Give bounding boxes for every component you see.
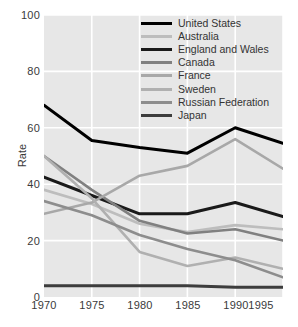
legend-item[interactable]: France	[141, 69, 293, 82]
legend-item[interactable]: England and Wales	[141, 43, 293, 56]
legend-item[interactable]: Japan	[141, 109, 293, 122]
x-tick-label: 1995	[238, 300, 284, 311]
legend-item-label: Sweden	[178, 84, 216, 95]
x-tick-label: 1970	[21, 300, 67, 311]
legend-swatch-icon	[141, 114, 172, 117]
legend-swatch-icon	[141, 48, 172, 51]
legend-item-label: England and Wales	[178, 44, 269, 55]
legend-swatch-icon	[141, 35, 172, 38]
chart-legend: United StatesAustraliaEngland and WalesC…	[141, 17, 293, 122]
series-lines	[44, 105, 283, 287]
legend-item[interactable]: Australia	[141, 30, 293, 43]
legend-swatch-icon	[141, 88, 172, 91]
series-line	[44, 156, 283, 241]
legend-swatch-icon	[141, 61, 172, 64]
legend-item-label: United States	[178, 18, 241, 29]
legend-item-label: Japan	[178, 110, 207, 121]
legend-item[interactable]: Russian Federation	[141, 96, 293, 109]
legend-item[interactable]: Sweden	[141, 82, 293, 95]
legend-item-label: Russian Federation	[178, 97, 269, 108]
x-tick-label: 1975	[69, 300, 115, 311]
series-line	[44, 286, 283, 287]
y-axis-title: Rate	[17, 126, 28, 186]
legend-item[interactable]: Canada	[141, 56, 293, 69]
legend-swatch-icon	[141, 22, 172, 25]
y-tick-label: 80	[6, 66, 40, 77]
legend-item-label: Canada	[178, 57, 215, 68]
legend-item[interactable]: United States	[141, 17, 293, 30]
legend-swatch-icon	[141, 101, 172, 104]
legend-item-label: Australia	[178, 31, 219, 42]
y-tick-label: 100	[6, 10, 40, 21]
legend-swatch-icon	[141, 74, 172, 77]
legend-item-label: France	[178, 70, 211, 81]
x-tick-label: 1985	[165, 300, 211, 311]
y-tick-label: 20	[6, 236, 40, 247]
x-tick-label: 1980	[117, 300, 163, 311]
line-chart: 100 80 60 40 20 0 Rate 1970 1975 1980 19…	[0, 0, 298, 327]
